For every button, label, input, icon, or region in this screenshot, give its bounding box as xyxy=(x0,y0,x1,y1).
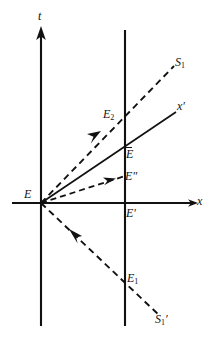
E1-subscript: 1 xyxy=(134,277,138,286)
x-prime-axis xyxy=(41,112,176,203)
Edprime-mark: ″ xyxy=(132,169,137,183)
S1-subscript: 1 xyxy=(181,61,185,70)
signal-S1prime-label: S1′ xyxy=(155,313,168,327)
t-axis xyxy=(36,26,46,326)
event-Eprime-label: E′ xyxy=(126,207,136,219)
Ebar-base: E xyxy=(126,148,133,160)
diagram-canvas xyxy=(0,0,214,343)
event-E2-label: E2 xyxy=(103,108,114,122)
event-E1-label: E1 xyxy=(127,272,138,286)
t-axis-label: t xyxy=(38,10,41,22)
x-prime-axis-label: x′ xyxy=(177,100,185,112)
Eprime-mark: ′ xyxy=(133,206,136,220)
signal-S1-label: S1 xyxy=(175,56,185,70)
event-Edprime-ray xyxy=(41,176,125,203)
signal-S1prime-line xyxy=(41,203,160,316)
event-Ebar-label: E xyxy=(126,148,133,160)
spacetime-diagram-figure: t x x′ S1 S1′ E E2 E E″ E′ E1 xyxy=(0,0,214,343)
event-Edprime-label: E″ xyxy=(125,170,137,182)
x-prime-mark: ′ xyxy=(182,99,185,113)
event-E-label: E xyxy=(24,188,31,200)
x-axis-label: x xyxy=(197,195,202,207)
S1prime-mark: ′ xyxy=(165,312,168,326)
x-axis xyxy=(12,199,198,207)
E2-subscript: 2 xyxy=(110,113,114,122)
